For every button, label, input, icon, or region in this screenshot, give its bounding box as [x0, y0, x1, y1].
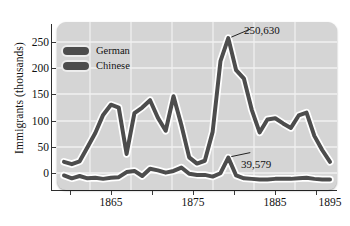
legend-item-chinese: Chinese [63, 58, 130, 73]
legend-item-german: German [63, 43, 130, 58]
x-tick-mark [70, 191, 71, 195]
x-tick-mark [111, 191, 112, 195]
legend-swatch-icon [63, 62, 89, 70]
annotation-german-peak: 250,630 [244, 24, 280, 36]
y-tick-label: 0 [21, 167, 49, 179]
y-tick-label: 250 [21, 36, 49, 48]
x-tick-mark [234, 191, 235, 195]
legend-label: Chinese [96, 60, 130, 71]
x-tick-label: 1875 [173, 196, 213, 208]
legend-swatch-icon [63, 47, 89, 55]
x-tick-mark [193, 191, 194, 195]
legend: German Chinese [63, 43, 130, 73]
x-axis-spine [51, 190, 337, 191]
y-tick-label: 200 [21, 62, 49, 74]
y-tick-label: 150 [21, 88, 49, 100]
chart-figure: Immigrants (thousands) 250 200 150 100 5… [0, 0, 350, 226]
x-tick-label: 1885 [255, 196, 295, 208]
y-axis-spine [51, 24, 52, 191]
legend-label: German [96, 45, 130, 56]
x-tick-label: 1895 [310, 196, 350, 208]
x-tick-mark [275, 191, 276, 195]
x-tick-mark [316, 191, 317, 195]
x-tick-mark [152, 191, 153, 195]
annotation-chinese-peak: 39,579 [241, 158, 271, 170]
chinese-callout-leader [231, 153, 250, 157]
y-tick-label: 50 [21, 141, 49, 153]
y-tick-label: 100 [21, 115, 49, 127]
x-tick-label: 1865 [91, 196, 131, 208]
